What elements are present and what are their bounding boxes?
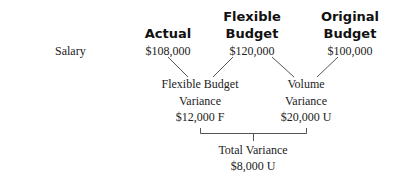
total-bracket: [201, 128, 307, 134]
connector-lines: [0, 0, 396, 180]
flexible-to-volume-line: [272, 57, 294, 77]
flexible-to-fbv-line: [213, 57, 233, 77]
actual-to-fbv-line: [168, 57, 188, 77]
original-to-volume-line: [317, 57, 338, 77]
